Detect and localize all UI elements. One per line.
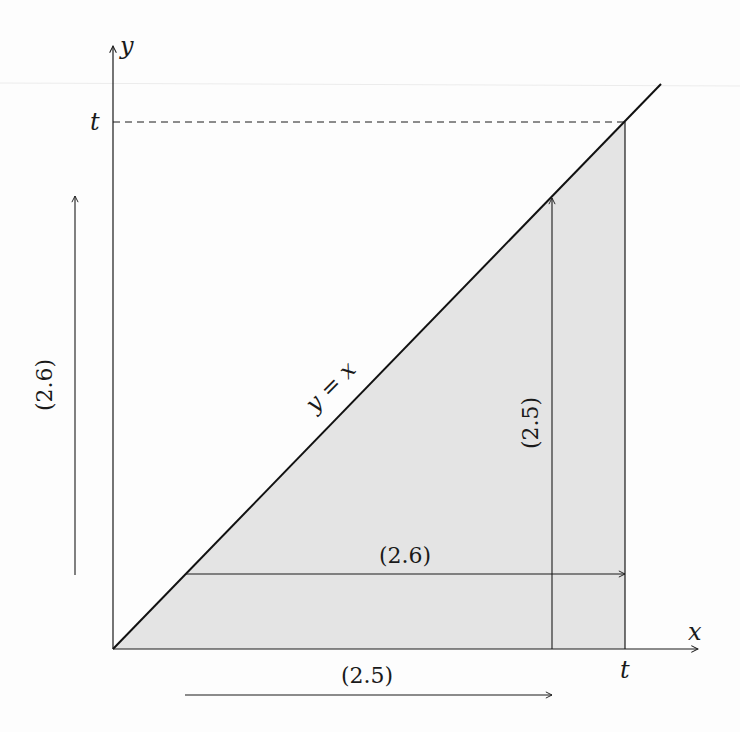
- inner-horizontal-arrow-label: (2.6): [379, 543, 431, 568]
- bottom-outer-arrow-label: (2.5): [341, 663, 393, 688]
- figure-page: y x t t y = x (2.6) (2.5) (2.6) (2.5): [0, 0, 740, 732]
- left-outer-arrow-label: (2.6): [32, 359, 57, 411]
- integration-region-diagram: y x t t y = x (2.6) (2.5) (2.6) (2.5): [0, 0, 740, 732]
- y-tick-label-t: t: [90, 108, 100, 136]
- inner-vertical-arrow-label: (2.5): [518, 397, 543, 449]
- bleed-through-rule: [0, 83, 740, 86]
- y-axis-label: y: [119, 32, 134, 60]
- x-tick-label-t: t: [620, 656, 630, 684]
- x-axis-label: x: [688, 618, 702, 646]
